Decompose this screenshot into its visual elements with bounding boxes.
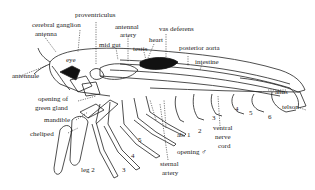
crayfish-anatomy-diagram: proventriculus cerebral ganglion antenna… bbox=[0, 0, 315, 190]
label-proventriculus: proventriculus bbox=[75, 12, 115, 19]
label-heart: heart bbox=[149, 37, 163, 44]
label-ventral-nerve-cord-line3: cord bbox=[218, 143, 230, 150]
label-mid-gut: mid gut bbox=[99, 42, 121, 49]
label-posterior-aorta: posterior aorta bbox=[179, 45, 220, 52]
label-telson: telson bbox=[282, 104, 299, 111]
label-antennal-artery-line2: artery bbox=[120, 32, 136, 39]
label-cerebral-ganglion: cerebral ganglion bbox=[32, 22, 81, 29]
label-leg-3: 3 bbox=[122, 167, 126, 174]
label-leg-2: leg 2 bbox=[81, 167, 95, 174]
label-vas-deferens: vas deferens bbox=[159, 26, 194, 33]
label-sternal-artery-line1: sternal bbox=[160, 161, 179, 168]
label-leg-4: 4 bbox=[131, 153, 135, 160]
label-opening-green-gland-line1: opening of bbox=[38, 96, 68, 103]
label-abdominal-segment-6: 6 bbox=[268, 114, 272, 121]
label-abdominal-segment-4: 4 bbox=[235, 106, 239, 113]
label-antenna: antenna bbox=[35, 31, 57, 38]
label-leg-5: 5 bbox=[138, 137, 142, 144]
label-intestine: intestine bbox=[195, 59, 219, 66]
label-eye: eye bbox=[66, 57, 76, 64]
label-opening-green-gland-line2: green gland bbox=[35, 105, 68, 112]
label-antennal-artery-line1: antennal bbox=[115, 24, 139, 31]
label-cheliped: cheliped bbox=[30, 131, 54, 138]
label-abdominal-segment-2: 2 bbox=[198, 128, 202, 135]
label-abdominal-segment-3: 3 bbox=[212, 115, 216, 122]
label-opening-male: opening ♂ bbox=[177, 149, 207, 156]
label-sternal-artery-line2: artery bbox=[162, 170, 178, 177]
label-ventral-nerve-cord-line2: nerve bbox=[215, 134, 231, 141]
label-mandible: mandible bbox=[44, 117, 70, 124]
label-testis: testis bbox=[133, 46, 147, 53]
label-ventral-nerve-cord-line1: ventral bbox=[213, 125, 232, 132]
label-anus: anus bbox=[275, 89, 288, 96]
label-abdominal-segment-1: ab. 1 bbox=[177, 132, 191, 139]
label-antennule: antennule bbox=[12, 73, 39, 80]
label-abdominal-segment-5: 5 bbox=[249, 110, 253, 117]
